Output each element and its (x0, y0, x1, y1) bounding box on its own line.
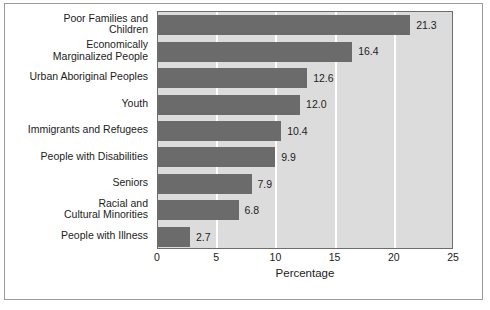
category-axis-labels: Poor Families and ChildrenEconomically M… (5, 11, 152, 249)
bar-row: 12.0 (158, 95, 452, 115)
bar-value-label: 9.9 (281, 152, 296, 163)
bar-row: 2.7 (158, 227, 452, 247)
bar-series: 21.316.412.612.010.49.97.96.82.7 (158, 12, 452, 248)
x-tick-label: 25 (447, 251, 459, 263)
bar (158, 95, 300, 115)
bar-row: 7.9 (158, 174, 452, 194)
bar-row: 12.6 (158, 68, 452, 88)
category-label: People with Disabilities (41, 151, 148, 163)
bar (158, 227, 190, 247)
x-tick-label: 15 (329, 251, 341, 263)
bar-row: 21.3 (158, 15, 452, 35)
category-label: Immigrants and Refugees (28, 124, 148, 136)
chart-figure: Poor Families and ChildrenEconomically M… (4, 3, 483, 300)
bar (158, 15, 410, 35)
x-tick-label: 10 (270, 251, 282, 263)
bar-value-label: 10.4 (287, 126, 307, 137)
bar (158, 42, 352, 62)
bar-value-label: 16.4 (358, 46, 378, 57)
x-axis-ticks: 0510152025 (157, 251, 453, 267)
bar-row: 9.9 (158, 147, 452, 167)
bar (158, 147, 275, 167)
bar-row: 16.4 (158, 42, 452, 62)
bar (158, 121, 281, 141)
plot-area: 21.316.412.612.010.49.97.96.82.7 (157, 11, 453, 249)
category-label: Urban Aboriginal Peoples (30, 71, 149, 83)
bar-value-label: 12.6 (313, 73, 333, 84)
bar-row: 10.4 (158, 121, 452, 141)
x-tick-label: 5 (213, 251, 219, 263)
category-label: People with Illness (61, 230, 148, 242)
bar (158, 174, 252, 194)
bar-value-label: 12.0 (306, 99, 326, 110)
category-label: Racial and Cultural Minorities (64, 198, 148, 221)
x-tick-label: 0 (154, 251, 160, 263)
category-label: Poor Families and Children (63, 13, 148, 36)
category-label: Youth (122, 98, 148, 110)
x-tick-label: 20 (388, 251, 400, 263)
bar (158, 200, 239, 220)
bar-value-label: 6.8 (245, 205, 260, 216)
bar-value-label: 2.7 (196, 232, 211, 243)
bar-value-label: 7.9 (258, 179, 273, 190)
category-label: Economically Marginalized People (53, 39, 148, 62)
bar-row: 6.8 (158, 200, 452, 220)
category-label: Seniors (112, 177, 148, 189)
x-axis-title: Percentage (157, 267, 453, 279)
bar (158, 68, 307, 88)
bar-value-label: 21.3 (416, 20, 436, 31)
